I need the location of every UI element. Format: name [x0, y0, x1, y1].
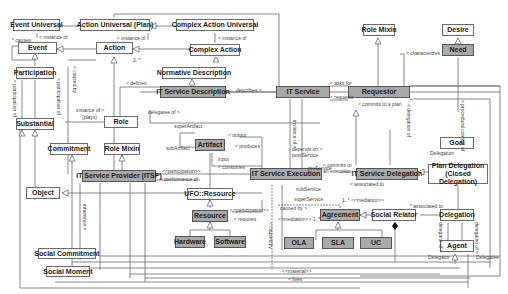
label-caused-by: < caused by	[72, 66, 78, 93]
label-delegator-of: delegator of >	[438, 222, 444, 253]
class-event-universal[interactable]: Event Universal	[13, 19, 60, 31]
class-complex-action-universal[interactable]: Complex Action Universal	[176, 19, 254, 31]
label-output: < output	[228, 132, 246, 138]
label-plays: (plays)	[82, 114, 97, 120]
label-input: input	[218, 156, 229, 162]
class-desire[interactable]: Desire	[442, 24, 474, 36]
label-sub-service: subService	[296, 186, 321, 192]
class-social-moment[interactable]: Social Moment	[46, 266, 90, 277]
label-consumes: < consumes	[218, 164, 245, 170]
class-role-mixin[interactable]: Role Mixin	[104, 143, 140, 155]
class-ufo-resource[interactable]: UFO::Resource	[187, 188, 233, 200]
class-resource[interactable]: Resource	[192, 210, 228, 222]
label-participation-of: < participation of	[12, 80, 18, 117]
class-it-service-description[interactable]: IT Service Description	[160, 86, 226, 98]
class-commitment[interactable]: Commitment	[50, 143, 88, 155]
label-requires: < requires	[234, 216, 256, 222]
label-performance-of: < performance of	[160, 176, 198, 182]
label-participation-stereo: <<participation>>	[162, 168, 201, 174]
class-goal[interactable]: Goal	[440, 137, 474, 149]
label-instance-of-plays: instance of >	[76, 107, 105, 113]
label-delegation-of: < delegation of	[406, 104, 412, 137]
label-characterizes: < characterizes	[406, 50, 440, 56]
class-role-mixin-top[interactable]: Role Mixin	[363, 24, 395, 36]
label-inherence: inherence >	[82, 204, 88, 230]
class-agreement[interactable]: Agreement	[320, 209, 360, 221]
class-action-universal-plan[interactable]: Action Universal (Plan)	[80, 19, 150, 31]
label-defines: < defines	[126, 80, 146, 86]
class-software[interactable]: Software	[214, 236, 246, 248]
class-need[interactable]: Need	[442, 44, 474, 56]
label-commits-to-execution: < commits to an execution	[323, 162, 353, 174]
label-delegatee: Delegatee	[476, 254, 499, 260]
class-hardware[interactable]: Hardware	[175, 236, 205, 248]
class-complex-action[interactable]: Complex Action	[190, 44, 240, 56]
label-delegatum: Delegatum	[430, 150, 454, 156]
label-produces: < produces	[235, 143, 260, 149]
class-event[interactable]: Event	[18, 42, 57, 54]
label-delegatee-of: delegatee of >	[148, 109, 180, 115]
class-role[interactable]: Role	[104, 116, 138, 128]
label-delegatee-of-v: delegatee of >	[474, 222, 480, 254]
class-object[interactable]: Object	[26, 187, 60, 199]
label-delegator: Delegator	[428, 254, 450, 260]
label-super-service: superService	[294, 196, 323, 202]
label-post-service: postService	[292, 152, 318, 158]
class-agent[interactable]: Agent	[440, 240, 474, 252]
label-sub-artifact: subArtifact	[166, 145, 190, 151]
label-caused-by-v: < caused by	[268, 222, 274, 249]
class-delegation[interactable]: Delegation	[440, 209, 474, 221]
class-substantial[interactable]: Substantial	[16, 118, 54, 130]
label-instance-of-complex: < instance of	[218, 35, 247, 41]
label-two-star: 2..*	[133, 57, 141, 63]
label-procedural-content-of: < procedural content of	[460, 100, 466, 151]
label-instance-of-event: < instance of	[39, 34, 68, 40]
label-material: <<material>>	[282, 268, 311, 274]
label-mediation-1: 1..* <<mediation>>	[342, 197, 384, 203]
label-caused-by-2: caused by >	[280, 205, 307, 211]
class-requestor[interactable]: Requestor	[348, 86, 410, 98]
class-uc[interactable]: UC	[360, 237, 392, 249]
class-action[interactable]: Action	[96, 42, 133, 54]
class-participation[interactable]: Participation	[16, 67, 54, 79]
class-it-service[interactable]: IT Service	[276, 86, 330, 98]
label-associated-to-2: * associated to	[410, 203, 443, 209]
class-artifact[interactable]: Artifact	[195, 139, 225, 151]
class-normative-description[interactable]: Normative Description	[162, 67, 226, 79]
label-lives: < lives	[288, 276, 302, 282]
label-instance-of-v: instance of >	[292, 120, 298, 149]
class-plan-delegation[interactable]: Plan Delegation (Closed Delegation)	[428, 164, 488, 184]
class-social-commitment[interactable]: Social Commitment	[38, 248, 96, 259]
label-participation-of-2: < participation of	[56, 78, 62, 115]
label-requests: < requests	[330, 94, 354, 100]
class-social-relator[interactable]: Social Relator	[372, 209, 416, 221]
label-asks-for: < asks for	[330, 80, 352, 86]
class-sla[interactable]: SLA	[322, 237, 354, 249]
label-describes: describes >	[236, 87, 262, 93]
class-ola[interactable]: OLA	[284, 237, 314, 249]
label-causes: * causes	[12, 37, 31, 43]
class-it-service-delegation[interactable]: IT Service Delegation	[356, 168, 418, 180]
class-it-service-provider[interactable]: IT Service Provider (ITSP)	[82, 170, 156, 182]
label-super-artifact: superArtifact	[174, 123, 202, 129]
label-commits-to-plan: < commits to a plan	[358, 101, 402, 107]
label-mediation-2: <<mediation>> 1..*	[278, 216, 320, 222]
label-associated-to: < associated to	[350, 181, 384, 187]
label-instance-of-action: < instance of	[117, 35, 146, 41]
label-participation-stereo-2: <<participation>>	[230, 207, 269, 213]
